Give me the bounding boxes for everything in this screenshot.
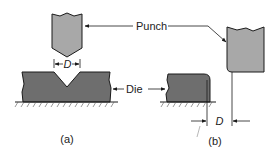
punch-leader-b [168,26,226,42]
ground-hatch-b [161,102,212,107]
ground-hatch-a [15,102,114,107]
die-a [22,72,111,102]
die-label: Die [126,83,143,95]
dimension-label-a: D [64,58,72,70]
punch-label: Punch [136,20,167,32]
panel-label-a: (a) [60,133,73,145]
diagram-canvas: D (a) [0,0,273,156]
panel-b: D (b) [160,27,264,147]
punch-b [227,27,264,72]
dimension-label-b: D [216,115,224,127]
punch-a [52,13,82,57]
panel-label-b: (b) [208,135,221,147]
die-b [166,74,210,102]
panel-a: D (a) [15,13,118,145]
